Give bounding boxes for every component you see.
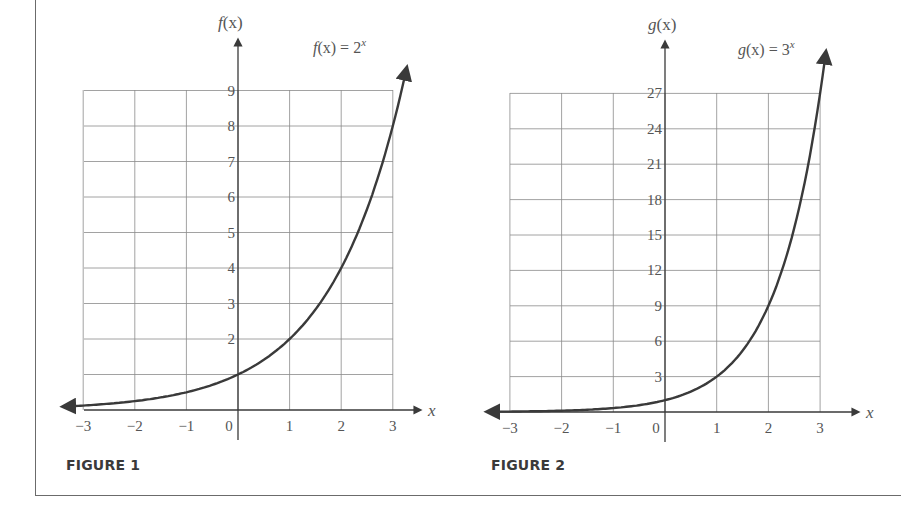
y-tick-label: 9: [655, 298, 663, 314]
figure-2-caption: FIGURE 2: [491, 457, 565, 473]
x-tick-label: 1: [286, 418, 294, 434]
y-tick-label: 15: [647, 227, 662, 243]
x-tick-label: −2: [127, 418, 143, 434]
figure-1-chart: −3−2−10123 23456789 f(x) x f(x) = 2x: [68, 13, 436, 440]
figure-1-x-tick-labels: −3−2−10123: [75, 418, 396, 434]
figure-2-y-tick-labels: 369121518212427: [647, 85, 663, 384]
y-tick-label: 18: [647, 192, 662, 208]
figure-1-curve: [68, 72, 406, 406]
y-tick-label: 6: [228, 189, 236, 205]
y-tick-label: 9: [228, 83, 236, 99]
x-tick-label: −3: [502, 420, 518, 436]
x-tick-label: 0: [652, 420, 660, 436]
y-tick-label: 21: [647, 156, 662, 172]
x-tick-label: 3: [389, 418, 397, 434]
x-tick-label: −1: [605, 420, 621, 436]
y-tick-label: 4: [228, 260, 236, 276]
x-tick-label: 2: [765, 420, 773, 436]
y-tick-label: 5: [228, 225, 236, 241]
figure-1-caption: FIGURE 1: [66, 457, 140, 473]
figure-2-equation-label: g(x) = 3x: [738, 38, 795, 59]
x-tick-label: 0: [225, 418, 233, 434]
y-tick-label: 3: [228, 296, 236, 312]
y-tick-label: 3: [655, 369, 663, 385]
x-tick-label: 2: [337, 418, 345, 434]
x-tick-label: 1: [713, 420, 721, 436]
figure-1-equation-label: f(x) = 2x: [313, 36, 366, 57]
x-tick-label: −2: [554, 420, 570, 436]
figure-2-x-axis-label: x: [865, 403, 874, 422]
figure-2-chart: −3−2−10123 369121518212427 g(x) x g(x) =…: [492, 15, 874, 442]
figure-1-y-axis-label: f(x): [218, 13, 243, 32]
x-tick-label: 3: [816, 420, 824, 436]
figure-2-x-tick-labels: −3−2−10123: [502, 420, 824, 436]
y-tick-label: 24: [647, 121, 663, 137]
charts-canvas: −3−2−10123 23456789 f(x) x f(x) = 2x −3−…: [0, 0, 913, 516]
figure-1-x-axis-label: x: [427, 401, 436, 420]
y-tick-label: 2: [228, 331, 236, 347]
figure-2-y-axis-label: g(x): [648, 15, 676, 34]
figure-1-y-tick-labels: 23456789: [228, 83, 236, 348]
y-tick-label: 7: [228, 154, 236, 170]
y-tick-label: 6: [655, 333, 663, 349]
y-tick-label: 8: [228, 118, 236, 134]
x-tick-label: −1: [178, 418, 194, 434]
x-tick-label: −3: [75, 418, 91, 434]
y-tick-label: 12: [647, 262, 662, 278]
y-tick-label: 27: [647, 85, 663, 101]
